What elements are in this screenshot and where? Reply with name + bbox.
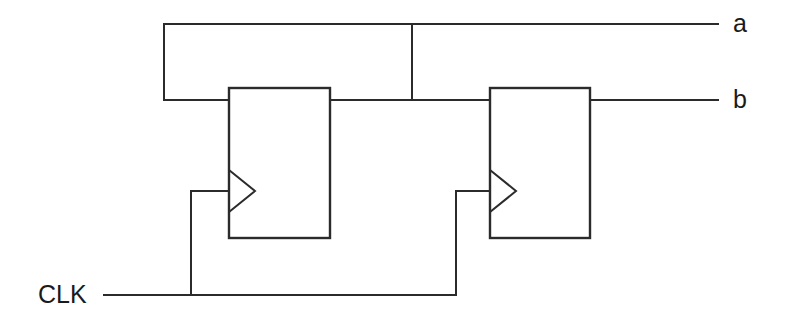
flip-flop-2-body [490,88,590,238]
output-a-label: a [733,9,747,37]
flip-flop-1-body [229,88,330,238]
output-b-label: b [733,85,747,113]
clock-input-label: CLK [38,280,87,308]
circuit-diagram-canvas: CLK a b [0,0,790,329]
circuit-schematic-svg: CLK a b [0,0,790,329]
